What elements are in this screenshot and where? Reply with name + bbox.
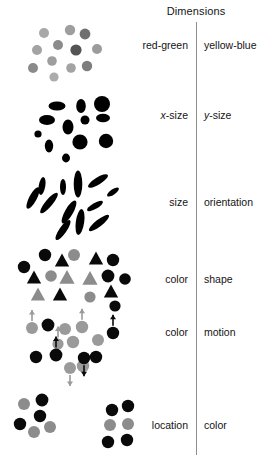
stimulus-ellipse [34, 130, 41, 137]
stimulus-panel [34, 96, 113, 162]
dimensions-figure: Dimensions red-green yellow-blue x-size … [0, 0, 264, 468]
stimulus-circle [68, 249, 80, 261]
stimulus-circle [28, 426, 40, 438]
stimulus-triangle [89, 252, 103, 265]
stimulus-circle [52, 338, 63, 349]
stimulus-circle [77, 360, 89, 372]
stimulus-triangle [27, 271, 41, 284]
row-label-right-color: color [204, 419, 264, 431]
stimulus-circle [45, 270, 57, 282]
stimulus-ellipse [74, 171, 83, 198]
stimulus-circle [34, 410, 46, 422]
motion-arrow-head [55, 326, 61, 331]
stimulus-circle [106, 404, 118, 416]
stimulus-circle [59, 323, 71, 335]
stimulus-circle [44, 421, 56, 433]
stimulus-circle [65, 25, 75, 35]
stimulus-circle [66, 63, 76, 73]
row-label-right-yellow-blue: yellow-blue [204, 39, 264, 51]
stimulus-circle [64, 362, 76, 374]
stimulus-triangle [59, 270, 74, 284]
stimulus-circle [78, 352, 90, 364]
stimulus-circle [28, 63, 38, 73]
stimulus-circle [49, 72, 58, 81]
stimulus-ellipse [99, 134, 113, 148]
vertical-divider [196, 22, 197, 455]
stimulus-circle [107, 254, 119, 266]
row-label-right-shape: shape [204, 273, 264, 285]
stimulus-circle [26, 322, 38, 334]
stimulus-circle [80, 29, 91, 40]
motion-arrow-head [81, 372, 87, 377]
stimulus-circle [121, 434, 133, 446]
stimulus-ellipse [37, 177, 47, 196]
stimulus-circle [47, 56, 57, 66]
stimulus-ellipse [63, 120, 74, 135]
row-label-right-y-size: y-size [204, 109, 264, 121]
stimulus-ellipse [87, 213, 111, 234]
stimulus-circle [36, 394, 49, 407]
row-label-right-orientation: orientation [204, 196, 264, 208]
stimulus-ellipse [62, 154, 70, 163]
stimulus-ellipse [24, 186, 42, 211]
stimulus-circle [109, 300, 120, 311]
stimulus-circle [39, 28, 49, 38]
stimulus-ellipse [38, 191, 60, 216]
stimulus-circle [50, 349, 63, 362]
row-label-left-x-size: x-size [76, 109, 188, 121]
stimulus-circle [122, 400, 134, 412]
row-label-left-red-green: red-green [76, 39, 188, 51]
motion-arrow-head [67, 382, 73, 387]
motion-arrow-head [29, 310, 35, 315]
row-label-left-location: location [76, 419, 188, 431]
stimulus-circle [30, 351, 42, 363]
motion-arrow-head [79, 309, 85, 314]
row-label-left-color-shape: color [76, 273, 188, 285]
stimulus-ellipse [86, 172, 109, 190]
stimulus-ellipse [74, 209, 86, 236]
stimulus-circle [18, 261, 30, 273]
stimulus-ellipse [39, 115, 55, 125]
stimulus-panel [28, 25, 102, 82]
stimulus-panel [26, 309, 119, 386]
stimulus-circle [53, 40, 63, 50]
stimulus-circle [42, 319, 55, 332]
row-label-left-color-motion: color [76, 326, 188, 338]
row-label-left-size: size [76, 196, 188, 208]
motion-arrow-head [53, 337, 59, 342]
stimulus-ellipse [45, 140, 53, 153]
stimulus-circle [18, 398, 30, 410]
stimulus-ellipse [49, 102, 66, 111]
stimulus-ellipse [53, 218, 73, 242]
stimulus-ellipse [72, 134, 87, 149]
stimulus-glyph-canvas [0, 0, 264, 468]
stimulus-circle [32, 45, 42, 55]
stimulus-circle [90, 351, 102, 363]
stimulus-circle [82, 61, 92, 71]
stimulus-ellipse [60, 179, 66, 195]
page-title: Dimensions [141, 5, 251, 17]
stimulus-circle [84, 291, 95, 302]
row-label-right-motion: motion [204, 326, 264, 338]
stimulus-triangle [53, 288, 67, 301]
stimulus-triangle [104, 285, 118, 298]
stimulus-circle [102, 436, 114, 448]
stimulus-circle [39, 249, 51, 261]
motion-arrow-head [110, 315, 116, 320]
stimulus-triangle [31, 288, 45, 301]
stimulus-circle [14, 418, 26, 430]
stimulus-triangle [55, 254, 69, 267]
